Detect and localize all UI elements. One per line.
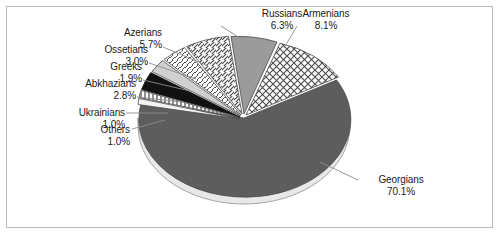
label-georgians-name: Georgians <box>360 174 442 186</box>
label-others-name: Others <box>56 124 130 136</box>
label-abkhazians-name: Abkhazians <box>46 78 136 90</box>
label-georgians-percent: 70.1% <box>360 186 442 198</box>
label-azerians-name: Azerians <box>78 27 162 39</box>
label-armenians: Armenians 8.1% <box>271 8 381 31</box>
label-georgians: Georgians 70.1% <box>360 174 442 197</box>
label-abkhazians-percent: 2.8% <box>46 90 136 102</box>
pie-slices <box>138 36 351 197</box>
label-ukrainians-name: Ukrainians <box>40 107 125 119</box>
label-armenians-percent: 8.1% <box>271 20 381 32</box>
label-others: Others 1.0% <box>56 124 130 147</box>
label-armenians-name: Armenians <box>271 8 381 20</box>
label-others-percent: 1.0% <box>56 136 130 148</box>
label-greeks-name: Greeks <box>60 61 142 73</box>
label-abkhazians: Abkhazians 2.8% <box>46 78 136 101</box>
pie-chart-figure: Russians 6.3% Armenians 8.1% Azerians 5.… <box>0 0 501 236</box>
label-ossetians-name: Ossetians <box>62 44 148 56</box>
